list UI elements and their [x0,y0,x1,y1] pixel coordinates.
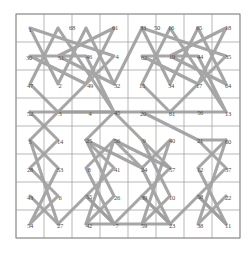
node-label: 56 [197,110,203,117]
node-label: 25 [86,138,92,145]
node-label: 59 [141,223,147,230]
node-label: 26 [114,195,120,202]
node-label: 52 [27,111,33,118]
node-label: 18 [225,25,231,32]
node-label: 40 [169,138,175,145]
node-label: 60 [225,139,231,146]
node-label: 23 [169,223,175,230]
figure-canvas [0,0,252,255]
node-label: 57 [169,167,175,174]
node-label: 53 [57,167,63,174]
node-label: 32 [114,83,120,90]
node-label: 50 [154,25,160,32]
node-label: 12 [197,167,203,174]
node-label: 33 [140,25,146,32]
node-label: 43 [27,195,33,202]
node-label: 51 [58,55,64,62]
node-label: 14 [57,139,63,146]
node-label: 55 [86,194,92,201]
node-label: 62 [141,55,147,62]
node-label: 68 [69,25,75,32]
node-label: 45 [114,110,120,117]
node-label: 49 [87,83,93,90]
node-label: 4 [115,54,118,61]
node-label: 44 [197,54,203,61]
node-label: 61 [169,111,175,118]
node-label: 41 [114,167,120,174]
node-label: 47 [27,83,33,90]
node-label: 22 [225,195,231,202]
node-label: 38 [197,223,203,230]
node-label: 37 [225,167,231,174]
node-label: 42 [86,223,92,230]
node-label: 64 [225,83,231,90]
node-label: 13 [225,111,231,118]
node-label: 54 [27,223,33,230]
node-label: 11 [225,223,231,230]
node-label: 2 [58,83,61,90]
node-label: 28 [27,167,33,174]
node-label: 1 [28,27,31,34]
node-label: 16 [168,25,174,32]
node-label: 56 [114,138,120,145]
node-label: 10 [169,195,175,202]
node-label: 34 [168,83,174,90]
node-label: 65 [196,25,202,32]
node-label: 6 [58,195,61,202]
node-label: 61 [112,25,118,32]
node-label: 35 [225,54,231,61]
grid-tour-figure: 1686150331665183051464621944354724932153… [0,0,252,255]
node-label: 8 [87,167,90,174]
node-label: 5 [28,139,31,146]
node-label: 24 [141,167,147,174]
node-label: 27 [57,223,63,230]
node-label: 7 [115,223,118,230]
node-label: 30 [26,55,32,62]
node-label: 15 [139,83,145,90]
node-label: 21 [197,138,203,145]
node-label: 9 [142,138,145,145]
node-label: 19 [169,54,175,61]
node-label: 3 [58,111,61,118]
node-label: 39 [141,195,147,202]
node-label: 17 [196,83,202,90]
node-label: 4 [88,111,91,118]
node-label: 20 [140,111,146,118]
node-label: 58 [197,194,203,201]
node-label: 46 [86,54,92,61]
